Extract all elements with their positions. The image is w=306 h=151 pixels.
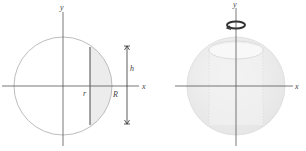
right-panel: y x xyxy=(175,0,299,146)
left-y-label: y xyxy=(59,3,64,12)
right-y-label: y xyxy=(232,0,237,9)
figure-canvas: y x r R h y x xyxy=(0,0,306,151)
height-label: h xyxy=(130,64,134,73)
right-x-label: x xyxy=(294,82,299,91)
diagram-svg: y x r R h y x xyxy=(0,0,306,151)
inner-radius-label: r xyxy=(83,89,87,98)
left-panel: y x r R h xyxy=(2,3,146,146)
outer-radius-label: R xyxy=(112,90,118,99)
left-x-label: x xyxy=(141,82,146,91)
